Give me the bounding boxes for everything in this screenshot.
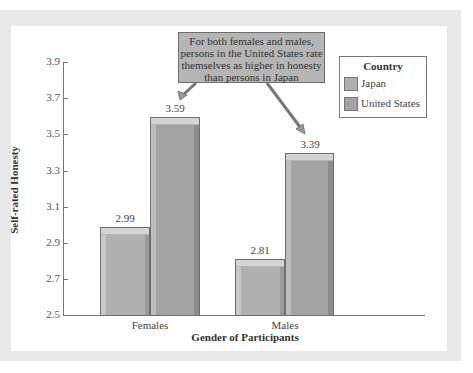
- annotation-callout: For both females and males, persons in t…: [178, 32, 325, 83]
- legend-item-united-states: United States: [344, 97, 420, 113]
- annotation-line: persons in the United States rate: [179, 47, 324, 59]
- annotation-line: For both females and males,: [179, 35, 324, 47]
- legend-title: Country: [340, 60, 426, 72]
- legend: Country Japan United States: [339, 56, 427, 118]
- arrow-to-us-females-icon: [178, 83, 196, 100]
- annotation-line: than persons in Japan: [179, 71, 324, 83]
- legend-label: United States: [361, 97, 420, 109]
- arrow-to-us-males-icon: [267, 83, 305, 134]
- legend-swatch-united-states: [344, 97, 358, 111]
- annotation-line: themselves as higher in honesty: [179, 59, 324, 71]
- legend-swatch-japan: [344, 77, 358, 91]
- legend-item-japan: Japan: [344, 77, 386, 93]
- legend-label: Japan: [361, 77, 386, 89]
